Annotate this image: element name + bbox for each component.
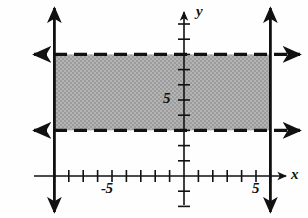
x-axis-label: x [291,166,299,183]
x-axis [34,170,286,182]
x-tick-label-five: 5 [252,180,260,197]
x-tick-label-negative-five: -5 [101,180,113,197]
graph-figure: x y -5 5 5 [0,0,308,218]
coordinate-plane-svg [0,0,308,218]
y-axis-label: y [196,3,203,20]
y-tick-label-five: 5 [163,90,171,107]
